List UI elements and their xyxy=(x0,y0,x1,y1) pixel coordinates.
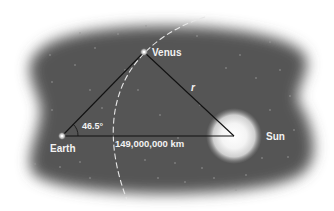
diagram-canvas xyxy=(0,0,334,211)
distance-label: 149,000,000 km xyxy=(115,139,184,149)
earth-label: Earth xyxy=(50,144,76,154)
angle-label: 46.5° xyxy=(82,122,103,131)
venus-label: Venus xyxy=(152,48,181,58)
sun-label: Sun xyxy=(266,132,285,142)
radius-label: r xyxy=(191,83,195,93)
